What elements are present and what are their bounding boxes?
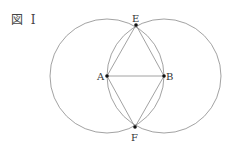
point-a — [105, 74, 109, 78]
segment-be — [136, 25, 164, 76]
segment-af — [107, 76, 135, 127]
label-a: A — [96, 71, 105, 82]
label-b: B — [166, 71, 173, 82]
label-f: F — [131, 132, 138, 143]
label-e: E — [132, 13, 139, 24]
geometry-diagram: A B E F — [0, 0, 232, 148]
segment-bf — [135, 76, 164, 127]
segment-ae — [107, 25, 136, 76]
point-f — [133, 125, 137, 129]
